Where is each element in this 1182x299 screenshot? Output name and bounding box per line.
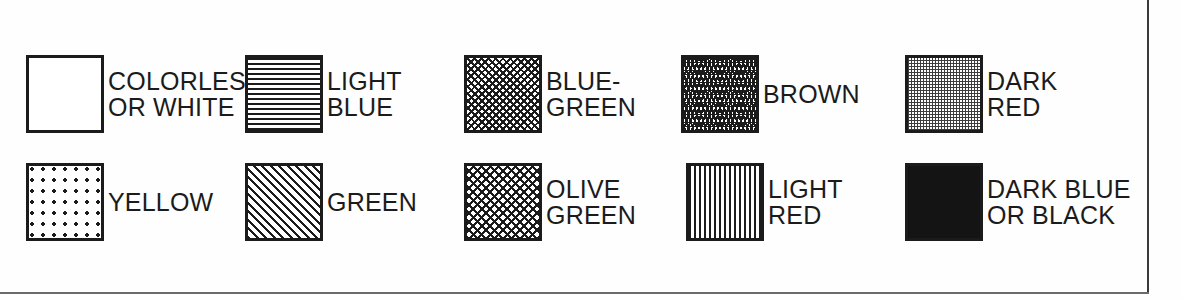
legend-label-colorless-or-white: COLORLESS OR WHITE xyxy=(108,68,263,120)
panel-bottom-border xyxy=(0,292,1149,294)
swatch-colorless-or-white xyxy=(26,55,104,133)
pattern-fill-horizontal-lines xyxy=(248,58,320,130)
legend-entry-yellow[interactable]: YELLOW xyxy=(26,152,213,252)
legend-label-light-red: LIGHT RED xyxy=(768,176,843,228)
swatch-dark-blue-or-black xyxy=(905,163,983,241)
swatch-yellow xyxy=(26,163,104,241)
legend-entry-olive-green[interactable]: OLIVE GREEN xyxy=(464,152,636,252)
legend-entry-blue-green[interactable]: BLUE- GREEN xyxy=(464,44,636,144)
legend-row-1: COLORLESS OR WHITE LIGHT BLUE BLUE- GREE… xyxy=(0,44,1147,154)
pattern-fill-vertical-lines xyxy=(689,166,761,238)
legend-entry-light-blue[interactable]: LIGHT BLUE xyxy=(245,44,402,144)
pattern-fill-blank xyxy=(29,58,101,130)
legend-entry-colorless-or-white[interactable]: COLORLESS OR WHITE xyxy=(26,44,263,144)
legend-label-dark-blue-or-black: DARK BLUE OR BLACK xyxy=(987,176,1131,228)
legend-label-light-blue: LIGHT BLUE xyxy=(327,68,402,120)
legend-entry-green[interactable]: GREEN xyxy=(245,152,417,252)
legend-entry-dark-red[interactable]: DARK RED xyxy=(905,44,1057,144)
legend-entry-light-red[interactable]: LIGHT RED xyxy=(686,152,843,252)
swatch-green xyxy=(245,163,323,241)
legend-label-green: GREEN xyxy=(327,189,417,215)
swatch-light-blue xyxy=(245,55,323,133)
pattern-fill-crosshatch-dense xyxy=(684,58,756,130)
legend-label-yellow: YELLOW xyxy=(108,189,213,215)
pattern-fill-stipple-sparse xyxy=(29,166,101,238)
legend-label-brown: BROWN xyxy=(763,81,860,107)
legend-row-2: YELLOW GREEN OLIVE GREEN LIGHT RED DARK xyxy=(0,152,1147,262)
swatch-olive-green xyxy=(464,163,542,241)
legend-label-blue-green: BLUE- GREEN xyxy=(546,68,636,120)
legend-label-olive-green: OLIVE GREEN xyxy=(546,176,636,228)
swatch-light-red xyxy=(686,163,764,241)
legend-entry-brown[interactable]: BROWN xyxy=(681,44,860,144)
pattern-fill-crosshatch-open xyxy=(467,166,539,238)
swatch-dark-red xyxy=(905,55,983,133)
pattern-fill-solid-black xyxy=(908,166,980,238)
swatch-brown xyxy=(681,55,759,133)
legend-label-dark-red: DARK RED xyxy=(987,68,1057,120)
legend-panel: COLORLESS OR WHITE LIGHT BLUE BLUE- GREE… xyxy=(0,0,1182,299)
pattern-fill-crosshatch-medium xyxy=(467,58,539,130)
panel-right-border xyxy=(1147,0,1149,294)
swatch-blue-green xyxy=(464,55,542,133)
pattern-fill-diagonal-lines xyxy=(248,166,320,238)
pattern-fill-stipple-fine xyxy=(908,58,980,130)
legend-entry-dark-blue-or-black[interactable]: DARK BLUE OR BLACK xyxy=(905,152,1131,252)
